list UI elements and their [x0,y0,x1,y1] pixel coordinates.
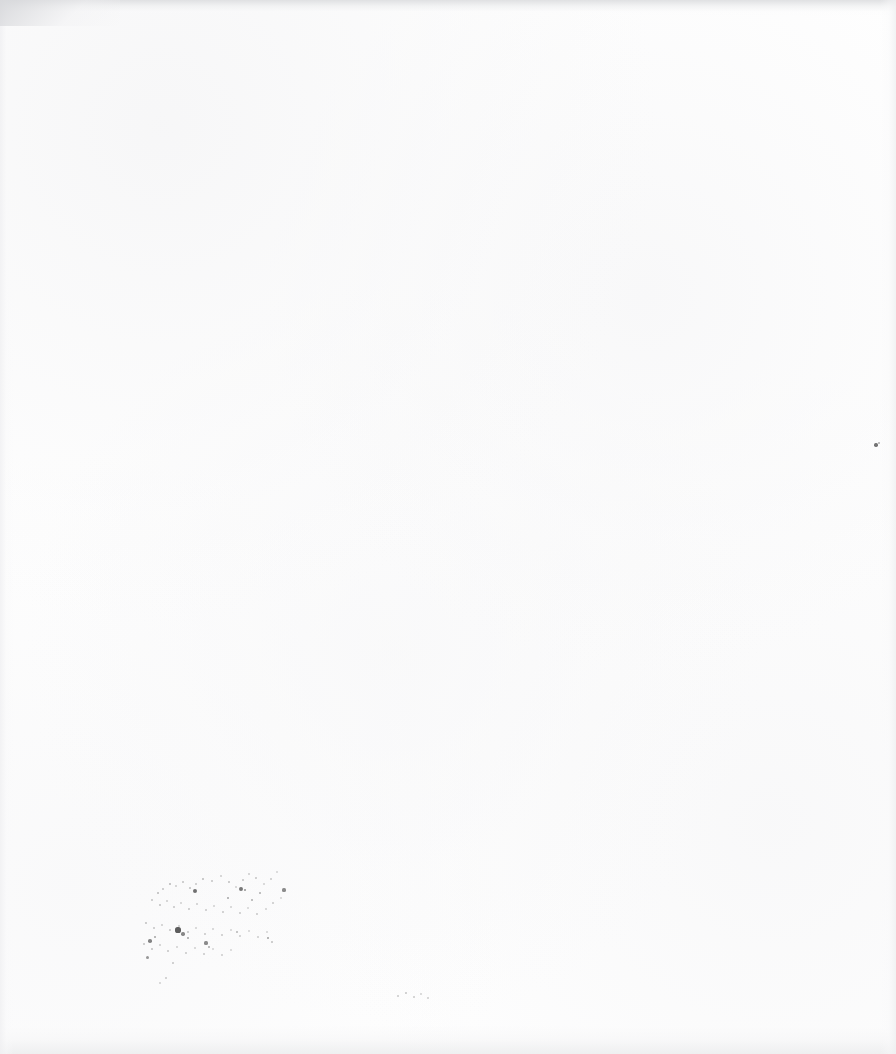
dust-speck [193,889,197,893]
dust-speck [211,880,213,882]
dust-speck [220,875,221,876]
dust-speck [181,932,184,935]
dust-speck [185,952,187,954]
dust-speck [874,443,877,446]
dust-speck [878,442,880,444]
dust-speck [146,956,149,959]
left-edge-shadow [0,0,14,1054]
dust-speck [397,995,399,997]
dust-speck [276,871,277,872]
dust-speck [169,883,171,885]
dust-speck [267,937,270,940]
dust-speck [255,877,257,879]
dust-speck [221,954,223,956]
dust-speck [175,927,180,932]
dust-speck [242,879,244,881]
dust-speck [228,881,230,883]
dust-speck [167,950,169,952]
dust-speck [195,883,196,884]
dust-speck [248,873,249,874]
dust-speck [161,924,162,925]
dust-speck [239,912,241,914]
dust-speck [154,936,157,939]
top-left-corner-shadow [0,0,120,26]
scanned-page [0,0,896,1054]
dust-speck [157,892,159,894]
dust-speck [159,982,160,983]
dust-speck [153,927,155,929]
right-edge-shadow [880,0,896,1054]
dust-speck [187,931,189,933]
speckle-artifact-field [0,0,896,1054]
dust-speck [230,949,231,950]
dust-speck [145,922,147,924]
dust-speck [236,931,238,933]
dust-speck [205,909,207,911]
dust-speck [188,908,190,910]
dust-speck [230,906,231,907]
dust-speck [257,936,259,938]
dust-speck [203,953,205,955]
dust-speck [148,939,152,943]
dust-speck [427,997,429,999]
dust-speck [235,886,236,887]
dust-speck [173,906,175,908]
dust-speck [280,897,281,898]
dust-speck [247,907,248,908]
top-edge-shadow [0,0,896,16]
dust-speck [166,900,167,901]
dust-speck [213,905,214,906]
dust-speck [212,928,213,929]
dust-speck [143,943,145,945]
dust-speck [282,888,285,891]
dust-speck [251,899,253,901]
dust-speck [271,941,273,943]
dust-speck [194,947,195,948]
dust-speck [230,929,231,930]
dust-speck [248,930,249,931]
dust-speck [204,941,207,944]
dust-speck [272,902,274,904]
dust-speck [221,934,223,936]
dust-speck [196,903,197,904]
dust-speck [208,946,210,948]
dust-speck [180,902,181,903]
dust-speck [175,885,176,886]
dust-speck [413,996,415,998]
dust-speck [405,992,407,994]
dust-speck [239,935,241,937]
dust-speck [239,887,243,891]
dust-speck [151,899,153,901]
dust-speck [162,888,163,889]
bottom-edge-shadow [0,1014,896,1054]
dust-speck [159,944,160,945]
dust-speck [227,897,230,900]
dust-speck [270,878,272,880]
dust-speck [169,929,171,931]
dust-speck [176,946,177,947]
dust-speck [195,927,196,928]
dust-speck [182,881,184,883]
dust-speck [265,908,266,909]
dust-speck [212,948,213,949]
dust-speck [259,892,261,894]
dust-speck [159,904,161,906]
dust-speck [172,962,174,964]
dust-speck [420,993,421,994]
dust-speck [204,933,206,935]
dust-speck [189,887,191,889]
dust-speck [244,889,247,892]
dust-speck [187,937,189,939]
dust-speck [222,911,224,913]
dust-speck [178,925,179,926]
dust-speck [266,931,267,932]
dust-speck [165,977,167,979]
dust-speck [202,878,204,880]
dust-speck [256,913,258,915]
dust-speck [263,883,264,884]
dust-speck [151,948,153,950]
